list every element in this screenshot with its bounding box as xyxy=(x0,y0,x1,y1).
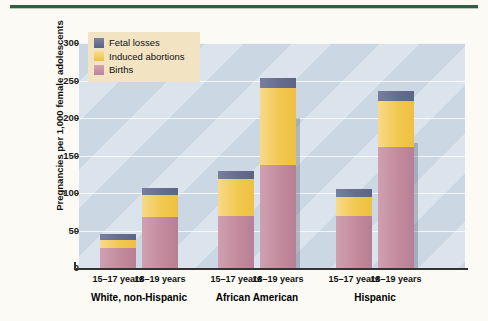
bar-1 xyxy=(100,234,136,269)
bar-shadow xyxy=(296,118,300,269)
chart-page: Pregnancies per 1,000 female adolescents… xyxy=(0,0,488,321)
bar-segment-births xyxy=(378,147,414,269)
bar-segment-abortions xyxy=(260,88,296,165)
bar-segment-abortions xyxy=(142,195,178,218)
bar-4 xyxy=(260,78,296,268)
bar-segment-births xyxy=(260,165,296,268)
bar-segment-births xyxy=(218,216,254,269)
bar-segment-births xyxy=(142,217,178,268)
x-axis-tick-labels: 15–17 years18–19 years15–17 years18–19 y… xyxy=(0,274,488,288)
bar-segment-abortions xyxy=(336,197,372,216)
bar-segment-abortions xyxy=(378,101,414,147)
bar-segment-births xyxy=(336,216,372,269)
bar-segment-births xyxy=(100,248,136,268)
x-axis-tick-label: 18–19 years xyxy=(248,274,308,284)
legend-label-induced-abortions: Induced abortions xyxy=(109,51,185,62)
y-axis: 050100150200250300 xyxy=(40,43,79,269)
bar-2 xyxy=(142,188,178,268)
legend-item-births: Births xyxy=(94,63,195,77)
bar-segment-abortions xyxy=(218,179,254,216)
bar-segment-abortions xyxy=(100,240,136,248)
x-axis-tick-label: 18–19 years xyxy=(366,274,426,284)
bar-segment-fetal xyxy=(378,91,414,101)
bar-shadow xyxy=(414,143,418,268)
y-axis-title-container: Pregnancies per 1,000 female adolescents xyxy=(22,40,42,270)
x-axis-group-labels: White, non-HispanicAfrican AmericanHispa… xyxy=(0,292,488,308)
legend-swatch-births-icon xyxy=(94,65,104,75)
bar-segment-fetal xyxy=(260,78,296,88)
legend: Fetal losses Induced abortions Births xyxy=(88,32,200,82)
legend-item-induced-abortions: Induced abortions xyxy=(94,50,195,64)
legend-swatch-fetal-losses-icon xyxy=(94,38,104,48)
legend-item-fetal-losses: Fetal losses xyxy=(94,36,195,50)
legend-label-births: Births xyxy=(109,64,133,75)
bar-segment-fetal xyxy=(336,189,372,197)
x-axis-line xyxy=(74,268,468,270)
bar-5 xyxy=(336,189,372,268)
bar-3 xyxy=(218,171,254,269)
legend-label-fetal-losses: Fetal losses xyxy=(109,37,160,48)
legend-swatch-induced-abortions-icon xyxy=(94,51,104,61)
bar-segment-fetal xyxy=(218,171,254,179)
bar-segment-fetal xyxy=(142,188,178,195)
x-axis-group-label: Hispanic xyxy=(305,292,445,303)
bar-6 xyxy=(378,91,414,268)
x-axis-origin-tick xyxy=(74,262,76,269)
top-divider-shadow xyxy=(10,8,478,9)
x-axis-tick-label: 18–19 years xyxy=(130,274,190,284)
